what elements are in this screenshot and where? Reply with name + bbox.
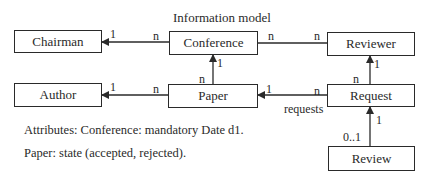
diagram-title: Information model <box>173 11 271 24</box>
entity-chairman: Chairman <box>14 30 102 53</box>
multiplicity-label: n <box>268 30 274 42</box>
multiplicity-label: n <box>153 83 159 95</box>
multiplicity-label: 1 <box>266 83 272 95</box>
entity-reviewer: Reviewer <box>327 32 415 56</box>
entity-paper: Paper <box>168 84 258 108</box>
multiplicity-label: 1 <box>110 28 116 40</box>
multiplicity-label: n <box>353 73 359 85</box>
multiplicity-label: n <box>199 73 205 85</box>
multiplicity-label: 0..1 <box>343 131 361 143</box>
multiplicity-label: n <box>314 30 320 42</box>
role-label: requests <box>284 103 323 115</box>
attributes-note-line1: Attributes: Conference: mandatory Date d… <box>24 124 244 137</box>
multiplicity-label: n <box>314 85 320 97</box>
entity-conference: Conference <box>169 31 258 55</box>
entity-review: Review <box>328 146 415 171</box>
entity-author: Author <box>14 83 102 107</box>
multiplicity-label: 1 <box>110 81 116 93</box>
attributes-note-line2: Paper: state (accepted, rejected). <box>24 147 186 160</box>
multiplicity-label: 1 <box>374 58 380 70</box>
entity-request: Request <box>327 84 415 107</box>
multiplicity-label: 1 <box>376 114 382 126</box>
multiplicity-label: 1 <box>217 57 223 69</box>
multiplicity-label: n <box>153 30 159 42</box>
